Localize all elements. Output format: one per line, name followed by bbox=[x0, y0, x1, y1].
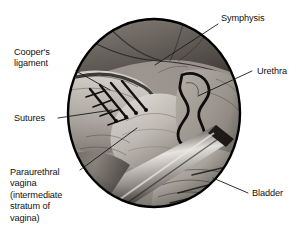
label-coopers-ligament: Cooper'sligament bbox=[14, 47, 50, 70]
operative-field-illustration bbox=[66, 17, 242, 210]
label-bladder: Bladder bbox=[252, 188, 283, 199]
illustration-svg bbox=[66, 17, 242, 210]
label-urethra: Urethra bbox=[257, 66, 287, 77]
label-symphysis: Symphysis bbox=[221, 13, 265, 24]
label-paraurethral-vagina: Paraurethralvagina(intermediatestratum o… bbox=[10, 167, 62, 224]
label-sutures: Sutures bbox=[14, 113, 45, 124]
illustration-canvas: Cooper'sligament Sutures Paraurethralvag… bbox=[0, 0, 305, 239]
